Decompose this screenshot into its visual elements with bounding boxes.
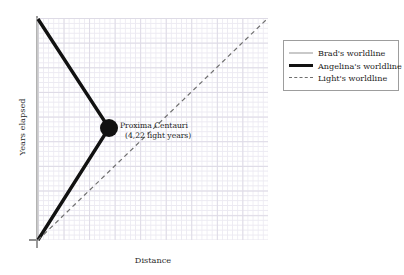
- legend-line-dashed-gray-icon: [289, 72, 313, 84]
- legend: Brad's worldline Angelina's worldline Li…: [283, 40, 399, 91]
- chart-figure: Proxima Centauri (4,22 light years) Dist…: [0, 0, 404, 275]
- angelina-worldline: [38, 19, 109, 240]
- legend-line-solid-gray-icon: [289, 47, 313, 59]
- legend-item-brad: Brad's worldline: [289, 47, 392, 59]
- legend-item-angelina: Angelina's worldline: [289, 59, 392, 71]
- legend-label-light: Light's worldline: [318, 73, 387, 83]
- y-axis-title: Years elapsed: [17, 67, 27, 187]
- legend-label-brad: Brad's worldline: [318, 48, 385, 58]
- legend-line-solid-black-icon: [289, 60, 313, 72]
- annotation-line-1: Proxima Centauri: [120, 121, 191, 131]
- annotation-line-2: (4,22 light years): [120, 131, 191, 141]
- legend-item-light: Light's worldline: [289, 72, 392, 84]
- legend-label-angelina: Angelina's worldline: [318, 61, 402, 71]
- x-axis-title: Distance: [38, 255, 268, 265]
- proxima-centauri-annotation: Proxima Centauri (4,22 light years): [120, 121, 191, 142]
- proxima-centauri-marker: [100, 119, 118, 137]
